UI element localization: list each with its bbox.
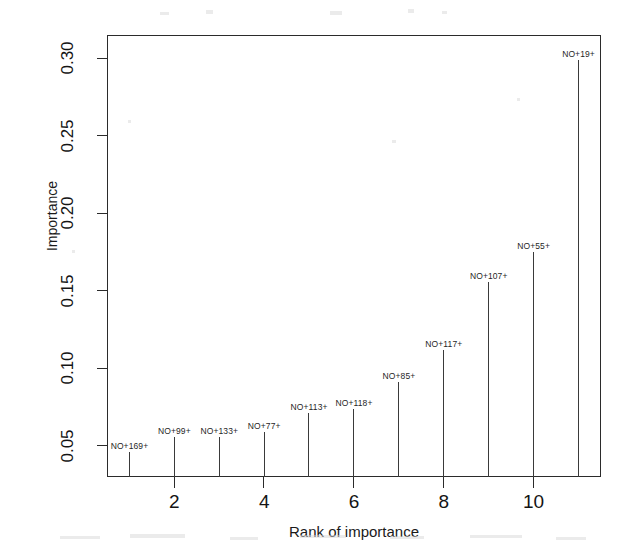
stem-line — [578, 60, 579, 477]
stem-line — [174, 437, 175, 477]
y-tick-label: 0.20 — [58, 189, 78, 237]
stem-line — [533, 252, 534, 477]
point-label: NO+55+ — [517, 241, 550, 251]
stem-line — [129, 452, 130, 477]
x-tick-label: 6 — [334, 491, 374, 513]
point-label: NO+77+ — [248, 421, 281, 431]
y-tick-mark — [97, 368, 107, 369]
x-tick-label: 4 — [244, 491, 284, 513]
x-tick-mark — [443, 477, 444, 488]
x-tick-mark — [263, 477, 264, 488]
y-tick-mark — [97, 58, 107, 59]
x-tick-label: 8 — [424, 491, 464, 513]
x-tick-label: 2 — [154, 491, 194, 513]
importance-rank-chart: Importance Rank of importance 0.050.100.… — [0, 0, 626, 557]
point-label: NO+169+ — [111, 441, 149, 451]
y-tick-mark — [97, 445, 107, 446]
x-tick-mark — [353, 477, 354, 488]
stem-line — [443, 350, 444, 477]
point-label: NO+118+ — [336, 398, 373, 408]
point-label: NO+19+ — [562, 49, 595, 59]
y-tick-label: 0.05 — [58, 422, 78, 470]
y-tick-mark — [97, 290, 107, 291]
x-tick-mark — [174, 477, 175, 488]
x-tick-mark — [533, 477, 534, 488]
point-label: NO+117+ — [425, 339, 462, 349]
stem-line — [398, 382, 399, 477]
x-tick-label: 10 — [514, 491, 554, 513]
x-axis-title: Rank of importance — [107, 523, 601, 540]
y-tick-label: 0.15 — [58, 267, 78, 315]
stem-line — [308, 413, 309, 477]
point-label: NO+99+ — [158, 426, 191, 436]
y-tick-label: 0.25 — [58, 112, 78, 160]
point-label: NO+133+ — [200, 426, 238, 436]
stem-line — [264, 432, 265, 477]
y-tick-mark — [97, 213, 107, 214]
y-tick-label: 0.10 — [58, 344, 78, 392]
y-tick-mark — [97, 135, 107, 136]
point-label: NO+85+ — [383, 371, 416, 381]
stem-line — [219, 437, 220, 477]
y-tick-label: 0.30 — [58, 34, 78, 82]
point-label: NO+107+ — [470, 271, 508, 281]
stem-line — [353, 409, 354, 477]
point-label: NO+113+ — [291, 402, 328, 412]
stem-line — [488, 282, 489, 477]
